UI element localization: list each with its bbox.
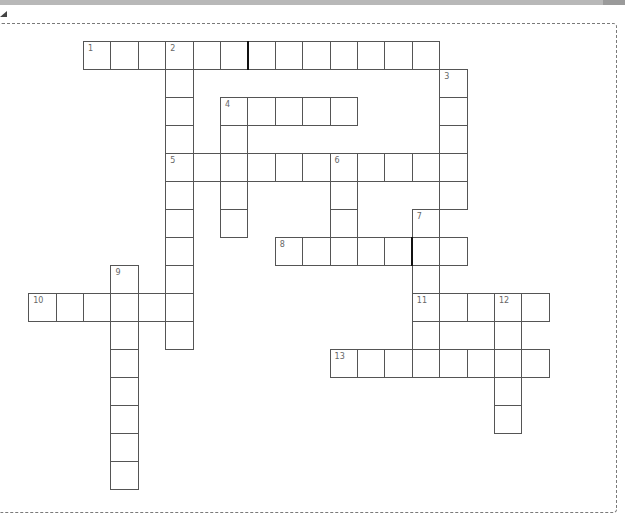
crossword-cell[interactable] [165,321,193,350]
crossword-cell[interactable] [193,41,221,70]
crossword-cell[interactable]: 4 [220,97,248,126]
crossword-cell[interactable]: 6 [330,153,358,182]
crossword-cell[interactable] [110,377,138,406]
crossword-cell[interactable] [220,41,248,70]
crossword-cell[interactable]: 7 [412,209,440,238]
clue-number: 12 [499,297,509,305]
crossword-cell[interactable] [494,349,522,378]
crossword-cell[interactable] [220,181,248,210]
crossword-cell[interactable] [330,209,358,238]
clue-number: 6 [335,157,340,165]
clue-number: 10 [33,297,43,305]
crossword-cell[interactable] [330,97,358,126]
crossword-cell[interactable]: 9 [110,265,138,294]
crossword-cell[interactable] [330,181,358,210]
crossword-cell[interactable]: 12 [494,293,522,322]
crossword-cell[interactable] [439,97,467,126]
crossword-cell[interactable]: 5 [165,153,193,182]
crossword-cell[interactable] [521,293,549,322]
crossword-cell[interactable] [467,349,495,378]
crossword-cell[interactable] [83,293,111,322]
crossword-cell[interactable] [357,237,385,266]
crossword-cell[interactable] [302,153,330,182]
clue-number: 5 [170,157,175,165]
crossword-cell[interactable] [439,293,467,322]
crossword-cell[interactable] [138,293,166,322]
crossword-cell[interactable] [302,41,330,70]
crossword-cell[interactable]: 1 [83,41,111,70]
clue-number: 4 [225,101,230,109]
crossword-cell[interactable] [412,237,440,266]
crossword-cell[interactable] [439,181,467,210]
clue-number: 13 [335,353,345,361]
crossword-cell[interactable]: 13 [330,349,358,378]
crossword-cell[interactable] [412,321,440,350]
crossword-cell[interactable] [220,125,248,154]
crossword-cell[interactable] [110,321,138,350]
crossword-cell[interactable] [494,405,522,434]
crossword-cell[interactable] [384,349,412,378]
crossword-cell[interactable]: 3 [439,69,467,98]
crossword-cell[interactable] [384,41,412,70]
crossword-cell[interactable] [165,209,193,238]
crossword-cell[interactable]: 8 [275,237,303,266]
clue-number: 3 [444,73,449,81]
crossword-cell[interactable] [247,41,275,70]
crossword-cell[interactable] [439,237,467,266]
crossword-cell[interactable] [110,41,138,70]
crossword-cell[interactable] [165,265,193,294]
crossword-cell[interactable] [521,349,549,378]
crossword-cell[interactable] [412,153,440,182]
clue-number: 11 [417,297,427,305]
crossword-cell[interactable] [165,69,193,98]
crossword-cell[interactable] [165,293,193,322]
crossword-cell[interactable] [110,293,138,322]
crossword-cell[interactable] [275,97,303,126]
clue-number: 2 [170,45,175,53]
clue-number: 9 [115,269,120,277]
crossword-cell[interactable] [110,461,138,490]
crossword-cell[interactable] [412,349,440,378]
crossword-cell[interactable] [138,41,166,70]
crossword-cell[interactable] [110,349,138,378]
crossword-cell[interactable] [384,153,412,182]
crossword-cell[interactable] [439,349,467,378]
clue-number: 1 [88,45,93,53]
crossword-cell[interactable] [412,41,440,70]
crossword-cell[interactable] [330,237,358,266]
crossword-cell[interactable] [165,181,193,210]
crossword-cell[interactable] [302,237,330,266]
crossword-cell[interactable]: 2 [165,41,193,70]
crossword-cell[interactable] [439,153,467,182]
clue-number: 8 [280,241,285,249]
crossword-cell[interactable] [165,97,193,126]
crossword-cell[interactable] [110,405,138,434]
clue-number: 7 [417,213,422,221]
crossword-cell[interactable] [439,125,467,154]
crossword-cell[interactable] [357,349,385,378]
crossword-cell[interactable] [275,41,303,70]
crossword-cell[interactable] [165,237,193,266]
crossword-cell[interactable] [357,41,385,70]
crossword-cell[interactable]: 11 [412,293,440,322]
crossword-cell[interactable] [193,153,221,182]
crossword-cell[interactable] [494,321,522,350]
crossword-cell[interactable] [357,153,385,182]
crossword-cell[interactable] [275,153,303,182]
crossword-cell[interactable] [220,209,248,238]
crossword-cell[interactable] [384,237,412,266]
word-divider [411,237,413,266]
crossword-cell[interactable] [302,97,330,126]
crossword-cell[interactable] [330,41,358,70]
crossword-cell[interactable] [110,433,138,462]
crossword-cell[interactable] [494,377,522,406]
crossword-cell[interactable] [165,125,193,154]
crossword-cell[interactable]: 10 [28,293,56,322]
crossword-cell[interactable] [247,97,275,126]
crossword-cell[interactable] [412,265,440,294]
crossword-cell[interactable] [56,293,84,322]
crossword-cell[interactable] [247,153,275,182]
crossword-cell[interactable] [220,153,248,182]
crossword-cell[interactable] [467,293,495,322]
